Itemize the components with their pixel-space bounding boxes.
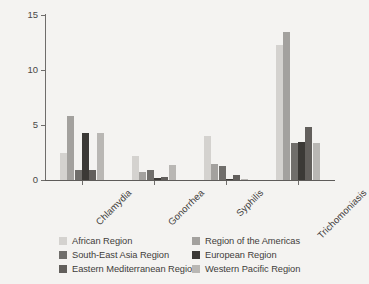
bar (147, 170, 154, 180)
bar (82, 133, 89, 180)
legend-item: South-East Asia Region (59, 250, 192, 260)
legend-swatch-icon (59, 265, 67, 273)
bar (75, 170, 82, 180)
x-category-label-chlamydia: Chlamydia (93, 187, 133, 227)
bar (276, 45, 283, 180)
y-tick-mark (41, 70, 45, 71)
bar-group (132, 15, 176, 180)
x-category-label-syphilis: Syphilis (234, 187, 265, 218)
x-category-label-trichomoniasis: Trichomoniasis (315, 187, 369, 241)
legend-swatch-icon (192, 251, 200, 259)
legend-swatch-icon (59, 251, 67, 259)
bar-group (276, 15, 320, 180)
x-tick-mark (226, 181, 227, 185)
y-tick-mark (41, 180, 45, 181)
bar (60, 153, 67, 181)
bar (291, 143, 298, 180)
bar (139, 172, 146, 180)
legend-label: South-East Asia Region (72, 250, 169, 260)
bar (67, 116, 74, 180)
y-tick-mark (41, 15, 45, 16)
bar (313, 143, 320, 180)
bar (226, 179, 233, 180)
bar (233, 175, 240, 181)
x-tick-mark (298, 181, 299, 185)
legend-item: Western Pacific Region (192, 264, 335, 274)
bar-group (60, 15, 104, 180)
bar (283, 32, 290, 181)
legend-item: Region of the Americas (192, 236, 335, 246)
plot-area (46, 15, 334, 180)
bar (219, 166, 226, 180)
y-tick-label: 5 (33, 120, 38, 130)
x-tick-mark (82, 181, 83, 185)
y-tick-label: 15 (27, 10, 38, 20)
x-axis-line (45, 180, 335, 181)
legend-item: African Region (59, 236, 192, 246)
x-category-label-gonorrhea: Gonorrhea (166, 187, 207, 228)
legend-label: Western Pacific Region (205, 264, 300, 274)
y-tick-label: 0 (33, 175, 38, 185)
bar (204, 136, 211, 180)
legend-swatch-icon (192, 237, 200, 245)
legend-label: European Region (205, 250, 277, 260)
legend-swatch-icon (59, 237, 67, 245)
legend-item: European Region (192, 250, 335, 260)
bar (132, 156, 139, 180)
legend-label: African Region (72, 236, 132, 246)
bar (241, 179, 248, 180)
legend-label: Region of the Americas (205, 236, 300, 246)
y-tick-label: 10 (27, 65, 38, 75)
bar (97, 133, 104, 180)
bar (305, 127, 312, 180)
bar (89, 170, 96, 180)
bar (211, 164, 218, 181)
x-tick-mark (154, 181, 155, 185)
legend-swatch-icon (192, 265, 200, 273)
y-tick-mark (41, 125, 45, 126)
bar (161, 177, 168, 180)
bar-group (204, 15, 248, 180)
legend-item: Eastern Mediterranean Region (59, 264, 192, 274)
legend-label: Eastern Mediterranean Region (72, 264, 197, 274)
bar (298, 142, 305, 180)
bar (169, 165, 176, 180)
chart-legend: African RegionRegion of the AmericasSout… (59, 234, 335, 276)
bar (154, 178, 161, 180)
